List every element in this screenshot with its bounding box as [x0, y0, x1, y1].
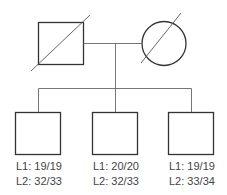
child-3-square: [169, 113, 214, 155]
child-2-l2: L2: 32/33: [93, 174, 139, 188]
child-1-l2: L2: 32/33: [16, 174, 62, 188]
father-deceased-slash: [31, 15, 90, 71]
child-3-l2: L2: 33/34: [169, 174, 215, 188]
child-2-l1: L1: 20/20: [93, 159, 139, 173]
mother-deceased-slash: [141, 13, 181, 63]
child-1-l1: L1: 19/19: [16, 159, 62, 173]
child-3-l1: L1: 19/19: [169, 159, 215, 173]
mother-circle: [142, 22, 186, 66]
child-1-square: [16, 113, 61, 155]
father-square: [39, 23, 84, 65]
child-2-square: [93, 113, 138, 155]
